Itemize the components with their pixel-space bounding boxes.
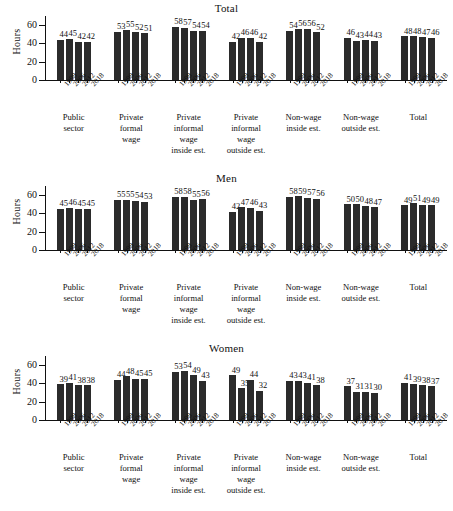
- y-axis-tick-label: 0: [12, 245, 37, 255]
- bar-value-label: 49: [228, 366, 244, 375]
- category-labels: PublicsectorPrivateformalwagePrivateinfo…: [45, 112, 447, 174]
- bar-value-label: 32: [255, 381, 271, 390]
- y-axis-tick-label: 0: [12, 75, 37, 85]
- x-axis-year-labels: 1998200620122018199820062012201819982006…: [45, 420, 447, 448]
- bar: [57, 384, 64, 420]
- bar-value-label: 47: [370, 198, 386, 207]
- bar-value-label: 45: [140, 369, 156, 378]
- bar-value-label: 43: [370, 31, 386, 40]
- bar: [401, 383, 408, 420]
- category-label-line: wage: [211, 134, 280, 145]
- bar: [114, 200, 121, 250]
- bar: [114, 32, 121, 80]
- bar: [114, 380, 121, 420]
- bar-value-label: 53: [140, 192, 156, 201]
- y-axis-tick-label: 20: [12, 57, 37, 67]
- y-axis-tick-label: 20: [12, 397, 37, 407]
- bar: [229, 212, 236, 250]
- bar: [172, 197, 179, 250]
- category-label-line: outside est.: [326, 293, 395, 304]
- category-label: Total: [384, 112, 453, 123]
- category-label: Total: [384, 452, 453, 463]
- bar-value-label: 37: [427, 377, 443, 386]
- bar-value-label: 43: [198, 371, 214, 380]
- bar-value-label: 43: [255, 201, 271, 210]
- y-axis-tick-label: 60: [12, 360, 37, 370]
- category-label-line: outside est.: [326, 463, 395, 474]
- plot-area: Hours02040603941383844484545535449434935…: [0, 356, 453, 430]
- bar: [286, 381, 293, 420]
- bar: [57, 40, 64, 80]
- bar: [286, 31, 293, 80]
- bar-value-label: 56: [198, 189, 214, 198]
- bar-value-label: 54: [198, 21, 214, 30]
- bar: [344, 386, 351, 420]
- plot-area: Hours02040604546454555555453585855564247…: [0, 186, 453, 260]
- chart-panel: MenHours02040604546454555555453585855564…: [0, 170, 453, 340]
- panel-title: Women: [0, 342, 453, 354]
- bar: [172, 372, 179, 420]
- category-label-line: Total: [384, 112, 453, 123]
- bars-container: 4445424253555251585754544246464254565652…: [45, 16, 447, 80]
- bar-value-label: 49: [427, 196, 443, 205]
- bar: [401, 36, 408, 80]
- category-label-line: outside est.: [211, 485, 280, 496]
- bar: [57, 209, 64, 250]
- bar-value-label: 51: [140, 24, 156, 33]
- category-label-line: wage: [211, 474, 280, 485]
- bar: [286, 197, 293, 250]
- bar-value-label: 30: [370, 383, 386, 392]
- bars-container: 3941383844484545535449434935443243434138…: [45, 356, 447, 420]
- bar-value-label: 46: [427, 28, 443, 37]
- bar-value-label: 42: [255, 32, 271, 41]
- y-axis-tick-label: 60: [12, 20, 37, 30]
- plot-area: Hours02040604445424253555251585754544246…: [0, 16, 453, 90]
- x-axis-year-labels: 1998200620122018199820062012201819982006…: [45, 80, 447, 108]
- chart-panel: WomenHours020406039413838444845455354494…: [0, 340, 453, 510]
- category-label-line: Total: [384, 452, 453, 463]
- category-label-line: outside est.: [326, 123, 395, 134]
- panel-title: Men: [0, 172, 453, 184]
- bars-container: 4546454555555453585855564247464358595756…: [45, 186, 447, 250]
- category-labels: PublicsectorPrivateformalwagePrivateinfo…: [45, 452, 447, 511]
- bar: [229, 375, 236, 420]
- y-axis-tick-label: 20: [12, 227, 37, 237]
- multi-panel-bar-chart-figure: TotalHours020406044454242535552515857545…: [0, 0, 453, 511]
- category-label-line: outside est.: [211, 145, 280, 156]
- y-axis-tick-label: 40: [12, 208, 37, 218]
- y-axis-tick-label: 60: [12, 190, 37, 200]
- category-label-line: Total: [384, 282, 453, 293]
- panel-title: Total: [0, 2, 453, 14]
- category-label: Total: [384, 282, 453, 293]
- x-axis-year-labels: 1998200620122018199820062012201819982006…: [45, 250, 447, 278]
- y-axis-tick-label: 0: [12, 415, 37, 425]
- y-axis-tick-label: 40: [12, 38, 37, 48]
- bar: [229, 42, 236, 80]
- bar-value-label: 38: [312, 376, 328, 385]
- bar-value-label: 56: [312, 189, 328, 198]
- chart-panel: TotalHours020406044454242535552515857545…: [0, 0, 453, 170]
- bar-value-label: 45: [83, 199, 99, 208]
- bar: [172, 27, 179, 80]
- bar: [344, 204, 351, 250]
- bar: [344, 38, 351, 80]
- y-axis-tick-label: 40: [12, 378, 37, 388]
- bar: [401, 205, 408, 250]
- bar-value-label: 38: [83, 376, 99, 385]
- category-label-line: outside est.: [211, 315, 280, 326]
- category-label-line: wage: [211, 304, 280, 315]
- bar-value-label: 44: [246, 370, 262, 379]
- bar-value-label: 42: [83, 32, 99, 41]
- category-labels: PublicsectorPrivateformalwagePrivateinfo…: [45, 282, 447, 344]
- bar-value-label: 52: [312, 23, 328, 32]
